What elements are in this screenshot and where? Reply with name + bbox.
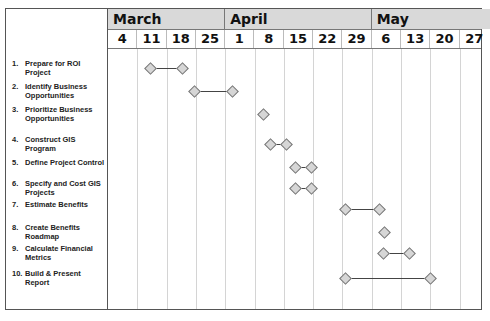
gridline — [313, 49, 314, 309]
start-milestone-diamond-icon — [144, 62, 157, 75]
task-number: 7. — [12, 200, 24, 209]
week-header: 13 — [401, 30, 430, 48]
gridline — [401, 49, 402, 309]
task-number: 4. — [12, 135, 24, 144]
start-milestone-diamond-icon — [339, 272, 352, 285]
start-milestone-diamond-icon — [257, 108, 270, 121]
start-milestone-diamond-icon — [377, 247, 390, 260]
gridline — [137, 49, 138, 309]
week-header: 27 — [460, 30, 489, 48]
week-header: 8 — [255, 30, 284, 48]
gridline — [255, 49, 256, 309]
week-header: 25 — [196, 30, 225, 48]
task-duration-bar — [345, 278, 430, 279]
start-milestone-diamond-icon — [264, 138, 277, 151]
week-header-row: 4111825181522296132027 — [108, 30, 481, 49]
end-milestone-diamond-icon — [176, 62, 189, 75]
month-header-april: April — [225, 9, 372, 29]
gridline — [372, 49, 373, 309]
week-header: 4 — [108, 30, 137, 48]
month-header-may: May — [372, 9, 490, 29]
end-milestone-diamond-icon — [305, 182, 318, 195]
week-header: 22 — [313, 30, 342, 48]
gridline — [342, 49, 343, 309]
task-name: Define Project Control — [25, 158, 107, 167]
task-name: Estimate Benefits — [25, 200, 107, 209]
task-name: Construct GIS Program — [25, 135, 107, 153]
task-number: 2. — [12, 82, 24, 91]
end-milestone-diamond-icon — [280, 138, 293, 151]
week-header: 29 — [342, 30, 371, 48]
month-header-march: March — [108, 9, 225, 29]
gridline — [167, 49, 168, 309]
task-name: Create Benefits Roadmap — [25, 223, 107, 241]
task-number: 8. — [12, 223, 24, 232]
end-milestone-diamond-icon — [373, 203, 386, 216]
task-name: Prioritize Business Opportunities — [25, 105, 107, 123]
week-header: 20 — [430, 30, 459, 48]
task-name: Prepare for ROI Project — [25, 59, 107, 77]
gridline — [430, 49, 431, 309]
start-milestone-diamond-icon — [379, 226, 392, 239]
gridline — [225, 49, 226, 309]
task-name: Identify Business Opportunities — [25, 82, 107, 100]
week-header: 15 — [284, 30, 313, 48]
task-name: Build & Present Report — [25, 269, 107, 287]
gridline — [284, 49, 285, 309]
task-number: 3. — [12, 105, 24, 114]
task-number: 6. — [12, 179, 24, 188]
task-number: 10. — [12, 269, 24, 278]
week-header: 1 — [225, 30, 254, 48]
task-number: 9. — [12, 244, 24, 253]
task-number: 5. — [12, 158, 24, 167]
task-name: Specify and Cost GIS Projects — [25, 179, 107, 197]
week-header: 11 — [137, 30, 166, 48]
task-label-column: 1.Prepare for ROI Project2.Identify Busi… — [6, 9, 108, 309]
end-milestone-diamond-icon — [226, 85, 239, 98]
timeline-grid — [108, 49, 481, 309]
start-milestone-diamond-icon — [339, 203, 352, 216]
end-milestone-diamond-icon — [305, 161, 318, 174]
gridline — [460, 49, 461, 309]
week-header: 6 — [372, 30, 401, 48]
gantt-chart: 1.Prepare for ROI Project2.Identify Busi… — [5, 8, 482, 310]
week-header: 18 — [167, 30, 196, 48]
task-name: Calculate Financial Metrics — [25, 244, 107, 262]
start-milestone-diamond-icon — [289, 182, 302, 195]
end-milestone-diamond-icon — [403, 247, 416, 260]
task-number: 1. — [12, 59, 24, 68]
end-milestone-diamond-icon — [424, 272, 437, 285]
start-milestone-diamond-icon — [188, 85, 201, 98]
month-header-row: MarchAprilMay — [108, 9, 481, 30]
start-milestone-diamond-icon — [289, 161, 302, 174]
